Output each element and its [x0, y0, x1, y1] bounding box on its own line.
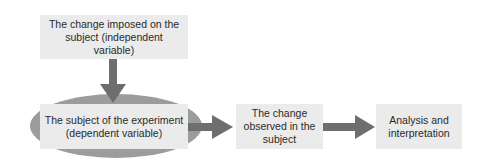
arrow-right-2-shaft — [323, 123, 357, 131]
node-observed-change: The change observed in the subject — [236, 104, 323, 149]
node-label: The subject of the experiment (dependent… — [44, 114, 184, 140]
node-dependent-variable: The subject of the experiment (dependent… — [40, 104, 188, 149]
arrow-down-shaft — [109, 59, 117, 86]
node-label: Analysis and interpretation — [380, 114, 458, 140]
node-independent-variable: The change imposed on the subject (indep… — [40, 15, 188, 59]
arrow-down-head — [100, 84, 126, 103]
node-label: The change observed in the subject — [240, 107, 319, 146]
arrow-right-1-head — [212, 115, 233, 139]
node-analysis: Analysis and interpretation — [376, 104, 462, 149]
node-label: The change imposed on the subject (indep… — [44, 18, 184, 57]
arrow-right-1-shaft — [188, 123, 214, 131]
arrow-right-2-head — [355, 115, 375, 139]
